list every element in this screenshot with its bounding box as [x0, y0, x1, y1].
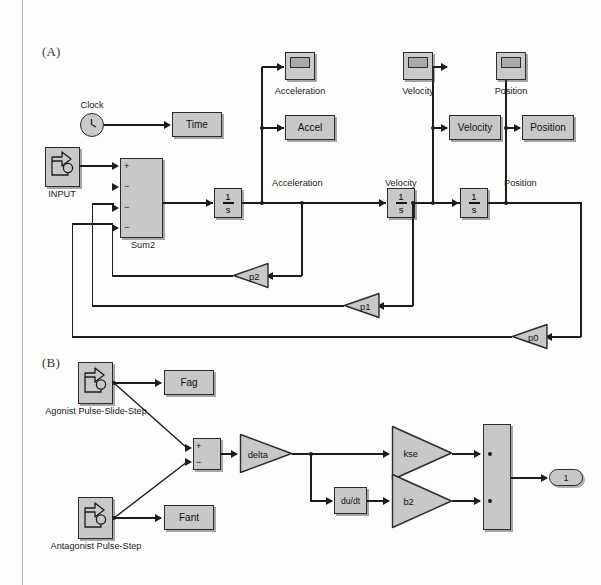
signal-label-acceleration: Acceleration — [272, 178, 323, 188]
arrow-sum-port2 — [112, 183, 119, 191]
clock-caption: Clock — [81, 100, 104, 110]
antagonist-subsystem-block[interactable] — [78, 497, 113, 539]
gain-delta[interactable]: delta — [239, 433, 293, 474]
clock-block[interactable] — [80, 113, 104, 137]
derivative-label: du/dt — [341, 496, 360, 506]
wire-antagonist-fant — [113, 517, 161, 518]
arrow-accel-scope — [277, 63, 284, 71]
input-subsystem-caption: INPUT — [48, 189, 76, 199]
scope-screen-icon — [501, 57, 521, 68]
arrow-accel-sink — [277, 124, 284, 132]
wire-accel-riser — [261, 67, 262, 203]
wire-position-bus — [488, 202, 582, 203]
arrow-kse-in — [383, 450, 390, 458]
arrow-final-sum-in2 — [474, 497, 481, 505]
wire-p0-out — [72, 336, 512, 337]
wire-p0-in — [551, 336, 581, 337]
wire-p2-riser — [112, 224, 113, 276]
panel-a-label: (A) — [42, 44, 61, 60]
output-port-label: 1 — [563, 473, 568, 483]
page-gutter-line — [22, 0, 23, 585]
wire-p1-riser — [92, 204, 93, 306]
integrator-3-block[interactable]: 1 s — [460, 188, 488, 218]
gain-p2[interactable]: p2 — [232, 262, 268, 289]
wire-p0-riser — [72, 224, 73, 337]
accel-sink-label: Accel — [298, 122, 322, 133]
gain-p2-label: p2 — [249, 270, 259, 281]
scope-acceleration[interactable] — [285, 52, 315, 80]
arrow-velocity-sink — [441, 124, 448, 132]
integrator-2-numerator: 1 — [398, 192, 403, 202]
gain-delta-label: delta — [248, 448, 268, 459]
sum2-sign-1: + — [124, 162, 129, 171]
wire-p2-drop — [301, 202, 302, 276]
gain-p0[interactable]: p0 — [511, 323, 547, 350]
wire-p1-in — [383, 305, 413, 306]
output-port-block[interactable]: 1 — [549, 469, 583, 486]
scope-position-caption: Position — [495, 86, 528, 96]
sum2-sign-3: − — [124, 203, 129, 212]
signal-label-velocity: Velocity — [385, 178, 417, 188]
final-sum-port-2 — [488, 499, 492, 503]
arrow-b2-in — [383, 497, 390, 505]
gain-p0-label: p0 — [528, 331, 538, 342]
gain-b2[interactable]: b2 — [391, 473, 453, 529]
figure-canvas: (A) Clock Time INPUT + − − − Sum2 1 — [0, 0, 601, 585]
junction-agonist — [112, 381, 116, 385]
integrator-1-denominator: s — [226, 205, 231, 215]
arrow-int2-in — [379, 199, 386, 207]
integrator-1-numerator: 1 — [225, 192, 230, 202]
fag-sink-block[interactable]: Fag — [164, 370, 214, 395]
input-subsystem-block[interactable] — [45, 147, 80, 187]
gain-kse-label: kse — [403, 448, 418, 459]
integrator-3-numerator: 1 — [471, 192, 476, 202]
arrow-velocity-scope — [441, 63, 448, 71]
position-sink-block[interactable]: Position — [522, 115, 574, 140]
sum2-sign-4: − — [124, 223, 129, 232]
antagonist-subsystem-icon — [79, 498, 111, 537]
wire-p0-drop — [580, 202, 581, 337]
wire-agonist-fag — [113, 382, 161, 383]
wire-p1-drop — [412, 202, 413, 306]
fant-sink-block[interactable]: Fant — [164, 505, 214, 530]
delta-sum-sign-plus: + — [196, 442, 201, 451]
fag-sink-label: Fag — [180, 377, 197, 388]
time-sink-block[interactable]: Time — [172, 112, 222, 137]
arrow-output-port — [541, 474, 548, 482]
position-sink-label: Position — [530, 122, 566, 133]
final-sum-block[interactable] — [483, 424, 511, 530]
fant-sink-label: Fant — [179, 512, 199, 523]
integrator-2-denominator: s — [399, 205, 404, 215]
wire-delta-drop — [310, 453, 311, 501]
delta-sum-sign-minus: − — [196, 458, 201, 467]
arrow-clock-time — [164, 121, 171, 129]
wire-p1-out — [92, 305, 344, 306]
arrow-agonist-fag — [155, 379, 162, 387]
wire-p1-to-sum — [92, 203, 113, 204]
gain-b2-label: b2 — [403, 496, 413, 507]
clock-face-icon — [81, 114, 102, 135]
gain-p1[interactable]: p1 — [343, 292, 379, 319]
input-subsystem-icon — [46, 148, 78, 185]
wire-clock-time — [104, 124, 164, 125]
arrow-sum-port3 — [112, 204, 119, 212]
velocity-sink-label: Velocity — [458, 122, 492, 133]
integrator-1-block[interactable]: 1 s — [214, 188, 242, 218]
scope-screen-icon — [408, 57, 428, 68]
scope-velocity[interactable] — [403, 52, 433, 80]
arrow-final-sum-in1 — [474, 450, 481, 458]
scope-position[interactable] — [496, 52, 526, 80]
gain-b2-triangle-icon — [391, 473, 453, 529]
panel-b-label: (B) — [42, 355, 60, 371]
arrow-input-sum — [112, 162, 119, 170]
agonist-subsystem-block[interactable] — [78, 362, 113, 404]
arrow-position-sink — [514, 124, 521, 132]
wire-input-sum — [80, 165, 113, 166]
arrow-int3-in — [452, 199, 459, 207]
antagonist-subsystem-caption: Antagonist Pulse-Step — [51, 541, 142, 551]
derivative-block[interactable]: du/dt — [334, 487, 367, 514]
scope-screen-icon — [290, 57, 310, 68]
wire-sum-port3-stub — [112, 203, 114, 204]
accel-sink-block[interactable]: Accel — [285, 115, 335, 140]
velocity-sink-block[interactable]: Velocity — [449, 115, 501, 140]
